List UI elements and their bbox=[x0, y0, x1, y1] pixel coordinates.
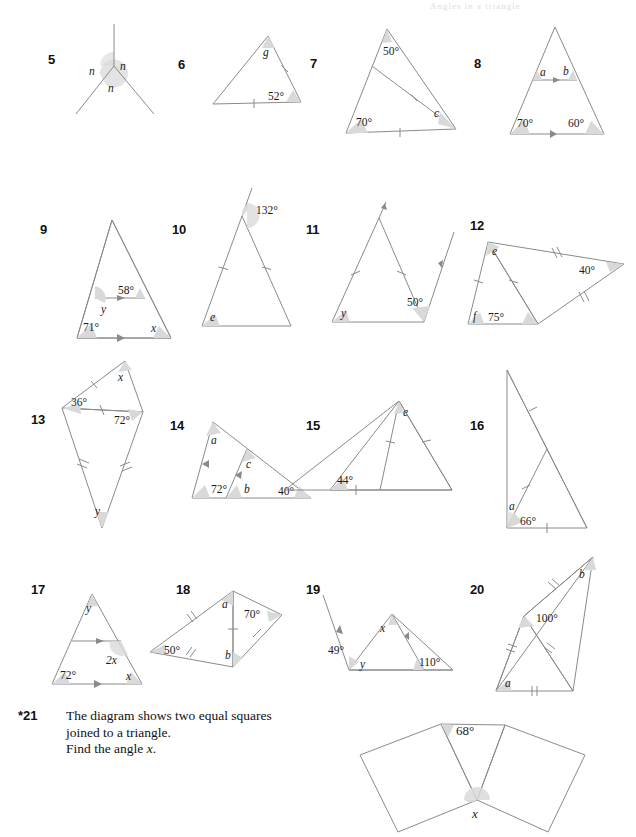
label-b: b bbox=[579, 568, 585, 580]
label-y: y bbox=[359, 658, 366, 671]
label-a: a bbox=[211, 434, 217, 446]
q21-line-3-pre: Find the angle bbox=[66, 741, 147, 756]
label-2x: 2x bbox=[106, 654, 118, 666]
label-e: e bbox=[492, 245, 497, 257]
figure-11: y 50° bbox=[322, 190, 457, 330]
label-50deg: 50° bbox=[164, 644, 181, 656]
figure-8: a b 70° 60° bbox=[492, 22, 617, 137]
question-number-15: 15 bbox=[306, 418, 320, 433]
label-36deg: 36° bbox=[71, 396, 88, 408]
label-58deg: 58° bbox=[118, 284, 135, 296]
label-c: c bbox=[246, 458, 251, 470]
faint-header: Angles in a triangle bbox=[430, 1, 521, 11]
figure-20: 100° b a bbox=[478, 556, 628, 701]
question-number-12: 12 bbox=[470, 218, 484, 233]
figure-19: x 49° y 110° bbox=[318, 592, 463, 697]
label-a: a bbox=[222, 598, 228, 610]
figure-13: x 36° 72° y bbox=[60, 356, 175, 536]
question-number-10: 10 bbox=[172, 222, 186, 237]
label-66deg: 66° bbox=[520, 515, 537, 527]
label-n-bottom: n bbox=[108, 82, 114, 94]
question-number-9: 9 bbox=[40, 222, 47, 237]
label-52deg: 52° bbox=[268, 90, 285, 102]
label-72deg: 72° bbox=[60, 669, 77, 681]
question-number-21: *21 bbox=[18, 708, 38, 725]
figure-21: 68° x bbox=[355, 708, 620, 837]
label-x: x bbox=[125, 670, 132, 682]
label-60deg: 60° bbox=[568, 117, 585, 129]
label-70deg: 70° bbox=[244, 608, 261, 620]
question-number-14: 14 bbox=[170, 418, 184, 433]
label-e: e bbox=[210, 311, 215, 323]
label-b: b bbox=[225, 649, 231, 661]
figure-6: g 52° bbox=[196, 28, 311, 118]
figure-15: e 44° bbox=[322, 388, 462, 498]
label-a: a bbox=[509, 500, 515, 512]
label-40deg: 40° bbox=[579, 264, 596, 276]
label-50deg: 50° bbox=[383, 45, 400, 57]
figure-5: n n n bbox=[58, 22, 168, 137]
question-number-7: 7 bbox=[310, 56, 317, 71]
q21-line-2: joined to a triangle. bbox=[66, 725, 171, 740]
label-b: b bbox=[563, 65, 569, 77]
question-number-8: 8 bbox=[474, 56, 481, 71]
label-40deg: 40° bbox=[278, 485, 295, 497]
question-number-16: 16 bbox=[470, 418, 484, 433]
figure-14: a c 72° b 40° bbox=[190, 412, 315, 507]
question-number-5: 5 bbox=[48, 52, 55, 67]
figure-12: e 40° f 75° bbox=[458, 232, 636, 342]
label-x: x bbox=[471, 806, 478, 821]
label-x: x bbox=[379, 622, 386, 634]
figure-18: a 50° 70° b bbox=[140, 578, 300, 678]
label-a: a bbox=[540, 66, 546, 78]
label-68deg: 68° bbox=[456, 723, 474, 738]
label-y: y bbox=[100, 303, 107, 316]
label-a: a bbox=[505, 677, 511, 689]
label-70deg: 70° bbox=[356, 116, 373, 128]
question-number-11: 11 bbox=[306, 222, 319, 237]
label-72deg: 72° bbox=[211, 483, 228, 495]
label-71deg: 71° bbox=[83, 321, 100, 333]
label-c: c bbox=[434, 107, 439, 119]
label-x: x bbox=[150, 322, 157, 334]
figure-16: a 66° bbox=[490, 362, 605, 534]
label-100deg: 100° bbox=[536, 612, 558, 624]
label-44deg: 44° bbox=[337, 474, 354, 486]
q21-line-3-post: . bbox=[153, 741, 156, 756]
label-75deg: 75° bbox=[488, 311, 505, 323]
question-number-6: 6 bbox=[178, 57, 185, 72]
label-e: e bbox=[403, 406, 408, 418]
label-70deg: 70° bbox=[517, 117, 534, 129]
q21-line-1: The diagram shows two equal squares bbox=[66, 708, 272, 723]
label-50deg: 50° bbox=[407, 296, 424, 308]
label-n-right: n bbox=[120, 60, 126, 72]
label-132deg: 132° bbox=[256, 204, 278, 216]
label-n-left: n bbox=[89, 65, 95, 77]
label-b: b bbox=[244, 483, 250, 495]
label-49deg: 49° bbox=[328, 644, 345, 656]
label-g: g bbox=[263, 46, 269, 59]
label-72deg: 72° bbox=[114, 414, 131, 426]
figure-9: 58° y 71° x bbox=[55, 198, 170, 343]
question-21-text: *21 The diagram shows two equal squares … bbox=[18, 708, 318, 758]
figure-10: 132° e bbox=[186, 186, 306, 341]
question-number-13: 13 bbox=[31, 412, 45, 427]
label-110deg: 110° bbox=[419, 656, 441, 668]
figure-7: 50° 70° c bbox=[328, 24, 458, 134]
label-y: y bbox=[85, 602, 92, 615]
label-y: y bbox=[94, 505, 101, 518]
label-x: x bbox=[117, 371, 124, 383]
worksheet-page: Angles in a triangle 5 n n n 6 g 52° 7 bbox=[0, 0, 636, 837]
label-y: y bbox=[340, 307, 347, 320]
